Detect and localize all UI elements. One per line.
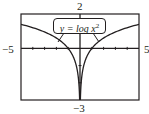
- xmin-label: −5: [2, 44, 14, 55]
- equation-exponent: 2: [96, 22, 100, 30]
- ymin-label: −3: [73, 103, 85, 114]
- ymax-label: 2: [77, 1, 83, 12]
- xmax-label: 5: [144, 44, 149, 55]
- equation-callout: y = log x2: [53, 18, 106, 34]
- equation-text: y = log x: [60, 23, 96, 34]
